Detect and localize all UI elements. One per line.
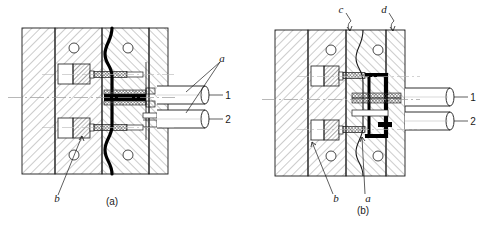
moulded-part-upper-layer-a (104, 90, 146, 94)
label-d-panel-b: d (381, 3, 387, 15)
runner-upper-layer-b (352, 93, 401, 98)
pocket-lower-b (311, 120, 324, 140)
gate-heavy-b (378, 122, 392, 127)
panel-b-tube-2 (405, 112, 454, 130)
bore-circle-bottom-right-a (123, 150, 133, 160)
pocket-lower-a (58, 118, 73, 138)
bore-circle-bottom-right-b (373, 151, 383, 161)
bore-circle-top-right-b (373, 45, 383, 55)
runner-step-b (352, 110, 388, 116)
panel-a-tube-1 (157, 86, 209, 104)
runner-lower-layer-b (352, 98, 401, 103)
insert-collar-upper-b (339, 72, 343, 80)
pocket-upper-a (58, 64, 73, 84)
panel-a-tube-2 (157, 110, 209, 128)
label-1-panel-a: 1 (225, 90, 231, 101)
plate-clamping-b (275, 30, 308, 176)
label-b-panel-b: b (333, 192, 339, 204)
caption-panel-b: (b) (357, 205, 369, 216)
gate-block-upper-a (146, 88, 155, 94)
insert-head-lower-a (73, 118, 90, 138)
panel-b-tube-1 (405, 88, 454, 106)
insert-head-upper-b (324, 66, 339, 86)
bore-circle-bottom-left-b (326, 151, 336, 161)
label-2-panel-a: 2 (225, 114, 231, 125)
label-a-panel-b: a (365, 192, 371, 204)
insert-collar-lower-b (339, 126, 343, 134)
mould-cross-section-diagram: a 1 2 b (a) (0, 0, 490, 227)
label-1-panel-b: 1 (470, 92, 476, 103)
pocket-upper-b (311, 66, 324, 86)
gate-block-lower-a (146, 101, 155, 107)
bore-circle-top-right-a (123, 43, 133, 53)
label-2-panel-b: 2 (470, 116, 476, 127)
bore-circle-top-left-a (69, 43, 79, 53)
caption-panel-a: (a) (106, 196, 118, 207)
plate-clamping-a (22, 28, 55, 174)
figure-container: a 1 2 b (a) (0, 0, 490, 227)
moulded-part-lower-layer-a (104, 101, 146, 105)
insert-head-upper-a (73, 64, 90, 84)
label-c-panel-b: c (339, 3, 344, 15)
insert-head-lower-b (324, 120, 339, 140)
gate-step-a (143, 113, 157, 118)
label-b-panel-a: b (54, 192, 60, 204)
label-a-panel-a: a (219, 52, 225, 64)
bore-circle-top-left-b (326, 45, 336, 55)
